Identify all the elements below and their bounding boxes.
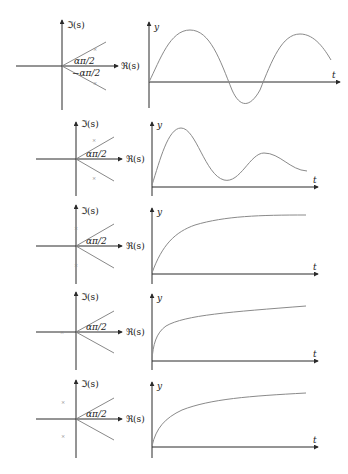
t-axis-label: t (332, 70, 336, 80)
s-plane-2: × × ℑ(s) ℜ(s) απ/2 (36, 119, 145, 196)
t-axis-label: t (313, 175, 317, 185)
angle-label-upper: απ/2 (74, 56, 95, 66)
y-axis-label: y (156, 381, 163, 391)
response-plot-3: y t (152, 207, 318, 284)
stability-ray-lower (76, 246, 114, 268)
y-axis-label: y (153, 22, 160, 32)
figure-canvas: × × ℑ(s) ℜ(s) απ/2 −απ/2 y t × × ℑ(s) ℜ(… (0, 0, 348, 474)
angle-label-lower: −απ/2 (72, 68, 101, 78)
response-curve (152, 128, 307, 185)
pole-marker: × (61, 399, 65, 405)
s-plane-1: × × ℑ(s) ℜ(s) απ/2 −απ/2 (16, 20, 140, 110)
response-plot-5: y t (152, 381, 318, 458)
real-axis-label: ℜ(s) (121, 61, 140, 71)
imag-axis-label: ℑ(s) (81, 292, 99, 302)
t-axis-label: t (313, 262, 317, 272)
angle-label-upper: απ/2 (86, 149, 107, 159)
t-axis-label: t (313, 349, 317, 359)
t-axis-label: t (313, 435, 317, 445)
row-4: × ℑ(s) ℜ(s) απ/2 y t (36, 292, 318, 370)
real-axis-label: ℜ(s) (126, 154, 145, 164)
s-plane-5: × × ℑ(s) ℜ(s) απ/2 (36, 379, 145, 458)
pole-marker: × (92, 175, 96, 181)
response-plot-2: y t (152, 120, 318, 196)
real-axis-label: ℜ(s) (126, 414, 145, 424)
stability-ray-lower (76, 332, 114, 353)
real-axis-label: ℜ(s) (126, 327, 145, 337)
pole-marker: × (60, 329, 64, 335)
response-curve (152, 215, 306, 273)
pole-marker: × (61, 433, 65, 439)
stability-ray-lower (76, 419, 114, 440)
row-2: × × ℑ(s) ℜ(s) απ/2 y t (36, 119, 318, 196)
pole-marker: × (93, 46, 97, 52)
imag-axis-label: ℑ(s) (81, 206, 99, 216)
imag-axis-label: ℑ(s) (67, 20, 85, 30)
row-1: × × ℑ(s) ℜ(s) απ/2 −απ/2 y t (16, 20, 340, 110)
response-plot-1: y t (149, 22, 340, 108)
response-curve (149, 30, 331, 104)
real-axis-label: ℜ(s) (126, 241, 145, 251)
s-plane-4: × ℑ(s) ℜ(s) απ/2 (36, 292, 145, 370)
angle-label-upper: απ/2 (86, 236, 107, 246)
pole-marker: × (93, 80, 97, 86)
y-axis-label: y (156, 207, 163, 217)
imag-axis-label: ℑ(s) (81, 119, 99, 129)
angle-label-upper: απ/2 (86, 409, 107, 419)
imag-axis-label: ℑ(s) (81, 379, 99, 389)
response-curve (152, 306, 306, 360)
y-axis-label: y (156, 293, 163, 303)
response-curve (152, 393, 306, 446)
pole-marker: × (74, 225, 78, 231)
row-5: × × ℑ(s) ℜ(s) απ/2 y t (36, 379, 318, 458)
pole-marker: × (92, 137, 96, 143)
y-axis-label: y (156, 120, 163, 130)
s-plane-3: × × ℑ(s) ℜ(s) απ/2 (36, 205, 145, 284)
row-3: × × ℑ(s) ℜ(s) απ/2 y t (36, 205, 318, 284)
response-plot-4: y t (152, 293, 318, 370)
pole-marker: × (74, 262, 78, 268)
angle-label-upper: απ/2 (86, 322, 107, 332)
